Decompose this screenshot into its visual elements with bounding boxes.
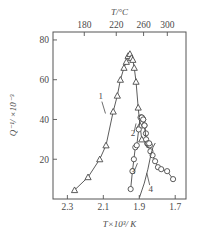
series-3-point-5: [147, 141, 152, 146]
curve-leader-1: [102, 102, 106, 114]
series-2-point-4: [134, 143, 139, 148]
series-2-point-16: [152, 159, 157, 164]
x-tick-label-1.9: 1.9: [133, 202, 145, 212]
series-2-point-5: [136, 127, 141, 132]
top-axis-title: T/°C: [111, 7, 129, 17]
series-2-point-20: [170, 177, 175, 182]
curve-label-1: 1: [98, 91, 103, 101]
top-tick-label-180: 180: [77, 20, 92, 30]
series-1-point-15: [135, 104, 141, 110]
series-1-point-1: [85, 174, 91, 180]
series-1-point-4: [110, 108, 116, 114]
curve-label-4: 4: [149, 184, 154, 194]
top-tick-label-220: 220: [109, 20, 124, 30]
series-1-point-7: [121, 65, 127, 71]
series-1-point-2: [97, 156, 103, 162]
internal-friction-plot: 2.32.11.91.720406080180220260300T/°CT×10…: [0, 0, 199, 241]
series-1-point-13: [131, 65, 137, 71]
x-tick-label-2.3: 2.3: [61, 202, 73, 212]
x-tick-label-1.7: 1.7: [169, 202, 181, 212]
series-2-point-19: [165, 169, 170, 174]
series-1-point-5: [114, 93, 120, 99]
series-2-point-18: [159, 167, 164, 172]
series-2-point-0: [128, 186, 133, 191]
x-tick-label-2.1: 2.1: [97, 202, 109, 212]
series-1-point-3: [103, 142, 109, 148]
series-1-point-6: [117, 77, 123, 83]
series-3-point-2: [142, 123, 147, 128]
y-tick-label-80: 80: [40, 35, 50, 45]
top-tick-label-260: 260: [136, 20, 151, 30]
x-axis-title: T×10³/ K: [103, 219, 138, 229]
chart-figure: 2.32.11.91.720406080180220260300T/°CT×10…: [0, 0, 199, 241]
y-tick-label-60: 60: [40, 75, 50, 85]
y-tick-label-40: 40: [40, 115, 50, 125]
series-3-point-1: [141, 117, 146, 122]
top-tick-label-300: 300: [160, 20, 175, 30]
curve-label-3: 3: [131, 166, 136, 176]
y-axis-title: Q⁻¹/ ×10⁻³: [8, 94, 18, 136]
y-tick-label-20: 20: [40, 155, 50, 165]
series-2-point-2: [131, 157, 136, 162]
series-1-point-14: [133, 79, 139, 85]
